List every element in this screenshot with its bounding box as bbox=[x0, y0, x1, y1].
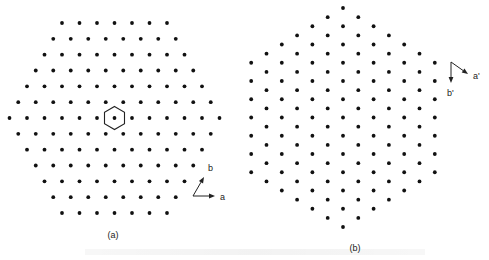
lattice-point bbox=[402, 116, 406, 120]
lattice-point bbox=[326, 198, 330, 202]
axis-a-prime-arrow bbox=[451, 62, 463, 71]
lattice-point bbox=[113, 53, 117, 57]
lattice-point bbox=[356, 216, 360, 220]
lattice-point bbox=[372, 79, 376, 83]
lattice-point bbox=[174, 195, 178, 199]
lattice-point bbox=[356, 161, 360, 165]
lattice-point bbox=[104, 69, 108, 73]
lattice-point bbox=[295, 179, 299, 183]
lattice-point bbox=[295, 143, 299, 147]
lattice-point bbox=[326, 88, 330, 92]
lattice-point bbox=[249, 116, 253, 120]
lattice-point bbox=[165, 84, 169, 88]
lattice-point bbox=[95, 53, 99, 57]
lattice-point bbox=[433, 170, 437, 174]
lattice-point bbox=[156, 37, 160, 41]
lattice-point bbox=[356, 15, 360, 19]
lattice-point bbox=[280, 170, 284, 174]
lattice-point bbox=[311, 207, 315, 211]
lattice-point bbox=[265, 88, 269, 92]
lattice-point bbox=[139, 69, 143, 73]
lattice-point bbox=[433, 116, 437, 120]
lattice-point bbox=[402, 79, 406, 83]
lattice-figure: a b (a) a' b' (b) bbox=[0, 0, 489, 260]
lattice-point bbox=[280, 134, 284, 138]
lattice-point bbox=[130, 116, 134, 120]
lattice-point bbox=[372, 116, 376, 120]
lattice-point bbox=[69, 164, 73, 168]
lattice-point bbox=[265, 70, 269, 74]
lattice-point bbox=[387, 125, 391, 129]
lattice-points-b bbox=[249, 6, 436, 229]
lattice-point bbox=[433, 61, 437, 65]
panel-a-hexagonal-lattice: a b (a) bbox=[8, 21, 225, 240]
lattice-point bbox=[295, 106, 299, 110]
lattice-point bbox=[113, 116, 117, 120]
lattice-point bbox=[148, 211, 152, 215]
lattice-point bbox=[174, 132, 178, 136]
lattice-point bbox=[356, 125, 360, 129]
lattice-point bbox=[341, 79, 345, 83]
lattice-point bbox=[34, 100, 38, 104]
lattice-point bbox=[295, 88, 299, 92]
lattice-point bbox=[43, 116, 47, 120]
axis-b-label: b bbox=[208, 163, 213, 173]
arrowhead-icon bbox=[462, 69, 468, 74]
lattice-point bbox=[156, 69, 160, 73]
lattice-point bbox=[78, 148, 82, 152]
lattice-point bbox=[78, 53, 82, 57]
lattice-point bbox=[25, 116, 29, 120]
lattice-point bbox=[165, 21, 169, 25]
lattice-point bbox=[218, 116, 222, 120]
lattice-point bbox=[191, 100, 195, 104]
lattice-point bbox=[418, 125, 422, 129]
lattice-point bbox=[165, 148, 169, 152]
lattice-point bbox=[311, 24, 315, 28]
lattice-point bbox=[95, 21, 99, 25]
lattice-point bbox=[130, 179, 134, 183]
lattice-point bbox=[418, 106, 422, 110]
lattice-point bbox=[113, 148, 117, 152]
lattice-point bbox=[78, 179, 82, 183]
lattice-point bbox=[418, 88, 422, 92]
lattice-point bbox=[372, 152, 376, 156]
lattice-point bbox=[249, 134, 253, 138]
lattice-point bbox=[104, 132, 108, 136]
lattice-point bbox=[121, 164, 125, 168]
lattice-point bbox=[25, 148, 29, 152]
lattice-point bbox=[130, 53, 134, 57]
lattice-point bbox=[326, 125, 330, 129]
lattice-point bbox=[387, 88, 391, 92]
lattice-point bbox=[387, 198, 391, 202]
lattice-point bbox=[191, 69, 195, 73]
lattice-point bbox=[341, 134, 345, 138]
lattice-point bbox=[200, 84, 204, 88]
lattice-point bbox=[372, 134, 376, 138]
lattice-point bbox=[387, 70, 391, 74]
lattice-point bbox=[356, 179, 360, 183]
lattice-point bbox=[402, 170, 406, 174]
lattice-point bbox=[387, 179, 391, 183]
lattice-point bbox=[25, 84, 29, 88]
lattice-point bbox=[311, 170, 315, 174]
lattice-point bbox=[433, 79, 437, 83]
axis-b-arrow bbox=[193, 182, 201, 196]
lattice-point bbox=[341, 207, 345, 211]
lattice-point bbox=[295, 70, 299, 74]
lattice-point bbox=[121, 37, 125, 41]
lattice-point bbox=[113, 84, 117, 88]
lattice-point bbox=[51, 100, 55, 104]
lattice-point bbox=[280, 189, 284, 193]
lattice-point bbox=[60, 179, 64, 183]
lattice-point bbox=[86, 195, 90, 199]
lattice-point bbox=[104, 164, 108, 168]
lattice-point bbox=[341, 170, 345, 174]
lattice-point bbox=[265, 52, 269, 56]
lattice-point bbox=[341, 152, 345, 156]
lattice-point bbox=[200, 148, 204, 152]
lattice-point bbox=[165, 53, 169, 57]
axis-a-prime-label: a' bbox=[473, 71, 480, 81]
lattice-point bbox=[295, 52, 299, 56]
lattice-point bbox=[372, 189, 376, 193]
lattice-point bbox=[78, 84, 82, 88]
